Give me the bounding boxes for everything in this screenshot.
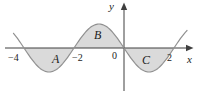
tick-label-neg4: −4 [8,53,19,63]
x-axis-label: x [187,54,192,65]
region-label-c: C [142,54,150,66]
region-a-fill [24,48,74,72]
y-axis-label: y [109,1,114,12]
region-label-b: B [94,29,101,41]
x-axis-arrow-icon [186,45,194,51]
region-label-a: A [52,53,59,65]
tick-label-pos2: 2 [167,53,172,63]
y-axis-arrow-icon [121,3,127,11]
tick-label-neg2: −2 [72,53,83,63]
origin-label: 0 [112,51,117,61]
curve-plot [0,0,204,94]
function-graph-figure: y x 0 −4 −2 2 A B C [0,0,204,94]
